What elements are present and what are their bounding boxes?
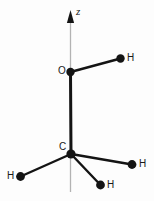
- atom-h2: [16, 172, 25, 181]
- atom-o1: [66, 68, 74, 76]
- atom-c1: [66, 149, 75, 158]
- atom-h3: [128, 160, 137, 169]
- z-axis-arrowhead: [67, 10, 74, 23]
- bond-o1-c1: [71, 72, 72, 154]
- atom-h1: [116, 54, 124, 62]
- atom-label-c1: C: [59, 142, 66, 152]
- molecule-figure: z OHCHHH: [0, 0, 154, 201]
- atom-label-o1: O: [58, 66, 66, 76]
- molecule-canvas: [0, 0, 154, 201]
- atom-label-h3: H: [139, 159, 146, 169]
- atom-label-h1: H: [127, 53, 134, 63]
- bond-c1-h2: [21, 154, 72, 177]
- bond-group: [21, 59, 133, 186]
- bond-o1-h1: [71, 59, 121, 73]
- atom-label-h4: H: [107, 180, 114, 190]
- atom-h4: [96, 181, 105, 190]
- atom-label-h2: H: [7, 171, 14, 181]
- z-axis-label: z: [76, 6, 80, 17]
